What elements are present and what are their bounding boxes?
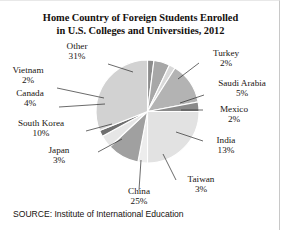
slice-label-mexico-pct: 2% bbox=[206, 114, 262, 124]
slice-label-south-korea: South Korea 10% bbox=[0, 118, 82, 139]
slice-label-saudi-arabia-pct: 5% bbox=[206, 88, 278, 98]
slice-label-mexico-name: Mexico bbox=[220, 104, 248, 114]
slice-label-other-name: Other bbox=[67, 41, 88, 51]
slice-label-china-name: China bbox=[128, 186, 150, 196]
slice-label-canada-pct: 4% bbox=[3, 98, 57, 108]
slice-label-japan-name: Japan bbox=[49, 145, 70, 155]
slice-label-turkey-name: Turkey bbox=[213, 48, 239, 58]
slice-label-canada-name: Canada bbox=[16, 88, 44, 98]
slice-label-saudi-arabia-name: Saudi Arabia bbox=[218, 78, 266, 88]
slice-label-saudi-arabia: Saudi Arabia 5% bbox=[206, 78, 278, 99]
pie-slices-group bbox=[96, 60, 199, 163]
slice-label-other: Other 31% bbox=[47, 41, 107, 62]
slice-label-turkey-pct: 2% bbox=[200, 58, 252, 68]
slice-label-turkey: Turkey 2% bbox=[200, 48, 252, 69]
leader-line-vietnam bbox=[57, 88, 104, 98]
slice-label-mexico: Mexico 2% bbox=[206, 104, 262, 125]
leader-line-turkey bbox=[178, 63, 199, 79]
slice-label-vietnam: Vietnam 2% bbox=[0, 65, 56, 86]
slice-label-india: India 13% bbox=[204, 135, 248, 156]
slice-label-japan-pct: 3% bbox=[33, 155, 85, 165]
slice-label-other-pct: 31% bbox=[47, 51, 107, 61]
slice-label-taiwan: Taiwan 3% bbox=[174, 174, 228, 195]
source-note: SOURCE: Institute of International Educa… bbox=[13, 209, 184, 219]
slice-label-vietnam-pct: 2% bbox=[0, 75, 56, 85]
slice-label-china-pct: 25% bbox=[110, 196, 168, 206]
pie-chart-figure: Home Country of Foreign Students Enrolle… bbox=[0, 0, 281, 231]
pie-graphic: Other 31% Vietnam 2% Canada 4% South Kor… bbox=[0, 0, 281, 231]
slice-label-canada: Canada 4% bbox=[3, 88, 57, 109]
slice-label-india-pct: 13% bbox=[204, 145, 248, 155]
slice-label-china: China 25% bbox=[110, 186, 168, 207]
slice-label-india-name: India bbox=[217, 135, 236, 145]
slice-label-taiwan-name: Taiwan bbox=[188, 174, 215, 184]
slice-label-taiwan-pct: 3% bbox=[174, 184, 228, 194]
slice-label-vietnam-name: Vietnam bbox=[12, 65, 43, 75]
slice-label-japan: Japan 3% bbox=[33, 145, 85, 166]
slice-label-south-korea-name: South Korea bbox=[18, 118, 64, 128]
slice-label-south-korea-pct: 10% bbox=[0, 128, 82, 138]
